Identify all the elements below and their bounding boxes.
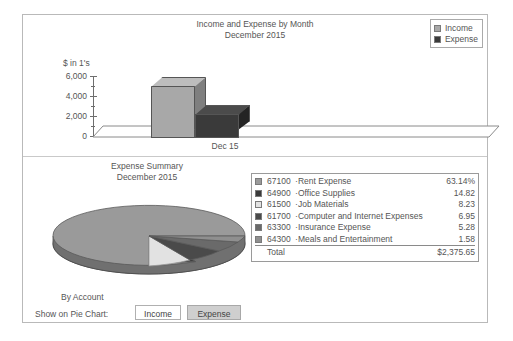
row-swatch-cell (255, 188, 267, 200)
row-swatch-cell (255, 234, 267, 246)
total-label: Total (267, 246, 429, 259)
show-on-pie-chart-label: Show on Pie Chart: (35, 309, 108, 319)
legend-swatch-icon (255, 213, 262, 220)
row-value: 6.95 (429, 211, 475, 223)
legend-item-expense: Expense (434, 34, 478, 44)
section-divider (23, 156, 487, 157)
row-swatch-cell (255, 211, 267, 223)
legend-item-income: Income (434, 23, 478, 33)
row-account-code: 64900 (267, 188, 295, 200)
show-expense-button[interactable]: Expense (187, 305, 241, 320)
total-swatch-cell (255, 246, 267, 259)
row-swatch-cell (255, 176, 267, 188)
legend-swatch-icon (255, 190, 262, 197)
table-row-total: Total $2,375.65 (255, 246, 475, 259)
legend-swatch-icon (255, 178, 262, 185)
report-screen: Income and Expense by Month December 201… (0, 0, 513, 341)
pie-chart-title-line1: Expense Summary (47, 161, 247, 172)
show-income-button[interactable]: Income (135, 305, 181, 320)
report-panel: Income and Expense by Month December 201… (22, 14, 488, 323)
bar-chart-title-line1: Income and Expense by Month (23, 19, 487, 30)
row-value: 63.14% (429, 176, 475, 188)
row-account-code: 67100 (267, 176, 295, 188)
row-value: 1.58 (429, 234, 475, 246)
bar-expense (195, 105, 253, 138)
pie-chart-title-line2: December 2015 (47, 172, 247, 183)
row-value: 14.82 (429, 188, 475, 200)
table-row[interactable]: 61500 · Job Materials 8.23 (255, 199, 475, 211)
pie-chart-controls: Show on Pie Chart: Income Expense (23, 305, 487, 323)
legend-swatch-expense (434, 36, 441, 43)
y-tick-major-2000 (90, 116, 97, 117)
legend-label-income: Income (445, 23, 473, 33)
pie-svg (49, 191, 249, 281)
legend-swatch-income (434, 25, 441, 32)
row-account-name: Rent Expense (298, 176, 429, 188)
table-row[interactable]: 61700 · Computer and Internet Expenses 6… (255, 211, 475, 223)
row-account-name: Insurance Expense (298, 222, 429, 234)
row-account-code: 64300 (267, 234, 295, 246)
legend-label-expense: Expense (445, 34, 478, 44)
table-row[interactable]: 67100 · Rent Expense 63.14% (255, 176, 475, 188)
bar-chart-title-line2: December 2015 (23, 30, 487, 41)
table-row[interactable]: 64900 · Office Supplies 14.82 (255, 188, 475, 200)
legend-swatch-icon (255, 236, 262, 243)
bar-expense-front (195, 114, 239, 138)
table-row[interactable]: 64300 · Meals and Entertainment 1.58 (255, 234, 475, 246)
y-tick-label-4000: 4,000 (53, 91, 87, 101)
row-swatch-cell (255, 199, 267, 211)
y-tick-minor-3000 (91, 106, 95, 107)
y-tick-minor-5000 (91, 86, 95, 87)
total-value: $2,375.65 (429, 246, 475, 259)
row-account-code: 61700 (267, 211, 295, 223)
row-account-name: Computer and Internet Expenses (298, 211, 429, 223)
table-row[interactable]: 63300 · Insurance Expense 5.28 (255, 222, 475, 234)
row-account-code: 63300 (267, 222, 295, 234)
bar-chart-title: Income and Expense by Month December 201… (23, 19, 487, 41)
legend-swatch-icon (255, 224, 262, 231)
expense-pie-chart (49, 191, 249, 285)
row-account-name: Job Materials (298, 199, 429, 211)
y-tick-label-6000: 6,000 (53, 71, 87, 81)
row-value: 8.23 (429, 199, 475, 211)
bar-income-front (151, 86, 195, 138)
y-tick-label-2000: 2,000 (53, 111, 87, 121)
x-category-label: Dec 15 (195, 141, 255, 151)
row-swatch-cell (255, 222, 267, 234)
y-tick-major-6000 (90, 76, 97, 77)
legend-swatch-icon (255, 201, 262, 208)
pie-chart-footer-label: By Account (61, 292, 104, 302)
pie-chart-title: Expense Summary December 2015 (47, 161, 247, 183)
row-account-name: Meals and Entertainment (298, 234, 429, 246)
y-axis-label: $ in 1's (63, 58, 90, 68)
expense-legend-table: 67100 · Rent Expense 63.14% 64900 · Offi… (251, 173, 479, 262)
bar-chart-legend: Income Expense (430, 19, 483, 48)
row-value: 5.28 (429, 222, 475, 234)
y-tick-major-4000 (90, 96, 97, 97)
income-expense-bar-chart: Income and Expense by Month December 201… (23, 15, 487, 155)
y-tick-label-0: 0 (53, 131, 87, 141)
row-account-code: 61500 (267, 199, 295, 211)
row-account-name: Office Supplies (298, 188, 429, 200)
